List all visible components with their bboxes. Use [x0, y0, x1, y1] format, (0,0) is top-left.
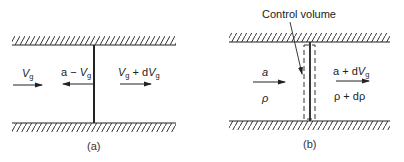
top-wall-hatching-a — [12, 36, 176, 45]
top-wall-hatching-b — [229, 33, 390, 42]
bottom-wall-hatching-b — [229, 121, 390, 130]
label-a-minus-vg: a − Vg — [61, 66, 91, 80]
label-vg-left: Vg — [22, 67, 34, 81]
panel-b: Control volume a ρ a + dVg ρ + dρ (b) — [229, 8, 390, 150]
leader-arrow-icon — [290, 22, 302, 74]
panel-a: Vg a − Vg Vg + dVg (a) — [12, 36, 176, 152]
control-volume-label: Control volume — [262, 8, 336, 20]
label-rho-plus-drho: ρ + dρ — [334, 90, 365, 102]
caption-b: (b) — [303, 138, 316, 150]
label-a: a — [262, 66, 268, 78]
label-a-plus-dvg: a + dVg — [333, 65, 369, 79]
bottom-wall-hatching-a — [12, 123, 176, 132]
caption-a: (a) — [87, 140, 100, 152]
label-vg-plus-dvg: Vg + dVg — [118, 66, 160, 80]
label-rho: ρ — [261, 92, 268, 104]
shock-wave-diagram: Vg a − Vg Vg + dVg (a) Control volume a … — [0, 0, 404, 162]
